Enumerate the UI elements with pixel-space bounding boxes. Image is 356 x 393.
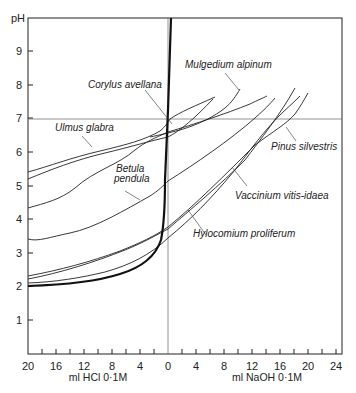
curve-betula-pendula: [28, 96, 267, 208]
y-tick-6: 6: [16, 146, 22, 158]
label-pinus-silvestris: Pinus silvestris: [271, 141, 337, 152]
y-tick-1: 1: [16, 314, 22, 326]
x-tick-labels: 20 16 12 8 4 0 4 8 12 16 20 24 ml HCl 0·…: [22, 360, 342, 383]
y-tick-5: 5: [16, 180, 22, 192]
y-tick-7: 7: [16, 112, 22, 124]
species-labels: Corylus avellana Mulgedium alpinum Ulmus…: [55, 59, 337, 239]
titration-chart: 1 2 3 4 5 6 7 8 9 pH 20 16 12: [0, 0, 356, 393]
x-tick-naoh-4: 4: [193, 360, 199, 372]
label-pendula: pendula: [113, 173, 150, 184]
y-tick-3: 3: [16, 247, 22, 259]
y-tick-8: 8: [16, 79, 22, 91]
curve-ulmus-glabra: [28, 97, 215, 172]
x-tick-naoh-20: 20: [302, 360, 314, 372]
y-tick-2: 2: [16, 280, 22, 292]
label-ulmus-glabra: Ulmus glabra: [55, 122, 114, 133]
x-axis: [42, 349, 336, 354]
x-tick-0: 0: [165, 360, 171, 372]
label-corylus-avellana: Corylus avellana: [88, 79, 162, 90]
y-tick-4: 4: [16, 213, 22, 225]
x-tick-naoh-24: 24: [330, 360, 342, 372]
curve-control: [28, 18, 171, 286]
x-tick-hcl-4: 4: [137, 360, 143, 372]
curve-vaccinium-vitis-idaea: [28, 88, 295, 279]
label-mulgedium-alpinum: Mulgedium alpinum: [185, 59, 272, 70]
label-hylocomium-proliferum: Hylocomium proliferum: [193, 228, 295, 239]
y-axis-label: pH: [11, 12, 25, 24]
x-axis-label-naoh: ml NaOH 0·1M: [232, 371, 302, 383]
x-tick-hcl-16: 16: [50, 360, 62, 372]
label-vaccinium-vitis-idaea: Vaccinium vitis-idaea: [235, 190, 329, 201]
x-tick-naoh-8: 8: [221, 360, 227, 372]
y-tick-9: 9: [16, 45, 22, 57]
x-axis-label-hcl: ml HCl 0·1M: [69, 371, 127, 383]
x-tick-hcl-20: 20: [22, 360, 34, 372]
